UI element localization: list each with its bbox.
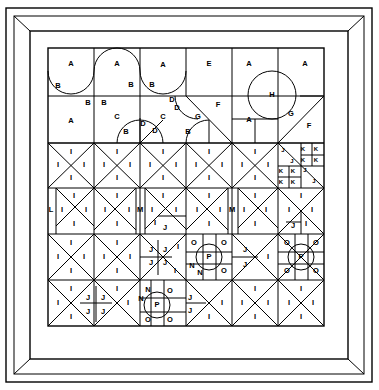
region-label-i-7: I: [116, 173, 118, 182]
region-label-j-83: J: [101, 307, 105, 316]
region-label-b-22: B: [123, 127, 129, 136]
region-label-b-8: B: [149, 80, 155, 89]
region-label-b-7: B: [128, 80, 134, 89]
region-label-a-1: A: [114, 59, 120, 68]
region-label-a-5: A: [302, 59, 308, 68]
region-label-i-5: I: [103, 160, 105, 169]
region-label-j-60: J: [149, 258, 153, 267]
region-label-j-70: J: [243, 260, 247, 269]
region-label-f-13: F: [216, 100, 221, 109]
region-label-i-54: I: [103, 252, 105, 261]
region-label-i-55: I: [129, 252, 131, 261]
region-label-i-17: I: [241, 160, 243, 169]
region-label-i-0: I: [70, 147, 72, 156]
region-label-o-90: O: [145, 315, 151, 324]
region-label-i-45: I: [288, 205, 290, 214]
region-label-a-15: A: [68, 116, 74, 125]
region-label-i-8: I: [162, 147, 164, 156]
region-label-i-79: I: [70, 312, 72, 321]
tiling-diagram: AAAEAABBBBBDDFHACCGAGFBDDB JKKJKKKKJKKJ …: [0, 0, 379, 390]
region-label-h-14: H: [269, 90, 274, 99]
region-label-n-67: N: [197, 268, 202, 277]
region-label-j-81: J: [101, 293, 105, 302]
region-label-i-97: I: [241, 298, 243, 307]
region-label-o-64: O: [221, 238, 227, 247]
region-label-j-34: J: [163, 223, 167, 232]
region-label-j-93: J: [188, 306, 192, 315]
region-label-i-101: I: [288, 298, 290, 307]
region-label-j-8: J: [303, 167, 306, 173]
region-label-i-71: I: [267, 252, 269, 261]
frame-miter-br: [348, 359, 364, 374]
region-label-i-40: I: [254, 191, 256, 200]
region-label-m-39: M: [229, 205, 235, 214]
region-label-o-63: O: [191, 238, 197, 247]
region-label-n-87: N: [138, 294, 143, 303]
region-label-i-27: I: [128, 205, 130, 214]
region-label-i-32: I: [175, 205, 177, 214]
region-label-a-2: A: [160, 60, 166, 69]
region-label-j-92: J: [188, 293, 192, 302]
region-label-k-5: K: [314, 157, 319, 163]
region-label-j-57: J: [149, 245, 153, 254]
region-label-i-100: I: [300, 284, 302, 293]
region-label-i-56: I: [116, 266, 118, 275]
region-label-d-12: D: [174, 103, 180, 112]
region-label-g-18: G: [195, 112, 201, 121]
region-label-i-13: I: [195, 160, 197, 169]
region-label-j-58: J: [163, 245, 167, 254]
region-label-o-76: O: [313, 266, 319, 275]
region-label-i-98: I: [267, 298, 269, 307]
region-label-j-82: J: [86, 307, 90, 316]
region-label-k-7: K: [291, 168, 296, 174]
region-label-b-10: B: [101, 98, 107, 107]
region-label-n-86: N: [145, 285, 150, 294]
region-label-k-9: K: [279, 179, 284, 185]
region-label-b-25: B: [185, 127, 191, 136]
region-label-i-99: I: [254, 312, 256, 321]
region-label-i-84: I: [116, 284, 118, 293]
region-label-c-16: C: [114, 112, 120, 121]
region-label-i-33: I: [154, 218, 156, 227]
region-label-e-3: E: [206, 59, 211, 68]
region-label-i-95: I: [221, 298, 223, 307]
region-label-i-103: I: [300, 312, 302, 321]
region-label-i-28: I: [116, 219, 118, 228]
region-label-f-21: F: [307, 121, 312, 130]
region-label-j-11: J: [312, 178, 315, 184]
region-label-i-19: I: [254, 173, 256, 182]
region-label-i-4: I: [116, 147, 118, 156]
region-label-i-9: I: [149, 160, 151, 169]
region-label-p-89: P: [154, 300, 159, 309]
region-label-i-35: I: [208, 191, 210, 200]
frame-miter-tr: [348, 16, 364, 31]
region-label-k-6: K: [279, 168, 284, 174]
frame-mid-rect: [14, 16, 364, 374]
region-label-i-48: I: [305, 219, 307, 228]
region-label-i-30: I: [162, 191, 164, 200]
arc-b-mid: [140, 71, 186, 94]
region-label-i-11: I: [162, 173, 164, 182]
region-label-i-12: I: [208, 147, 210, 156]
region-label-i-53: I: [116, 238, 118, 247]
region-label-o-72: O: [284, 238, 290, 247]
region-label-i-41: I: [243, 205, 245, 214]
region-label-i-43: I: [254, 219, 256, 228]
region-label-o-73: O: [313, 238, 319, 247]
region-label-i-44: I: [300, 191, 302, 200]
region-label-i-1: I: [57, 160, 59, 169]
region-label-p-65: P: [206, 252, 211, 261]
region-label-i-3: I: [70, 173, 72, 182]
region-label-j-0: J: [281, 147, 284, 153]
region-label-k-2: K: [314, 146, 319, 152]
region-label-c-17: C: [160, 112, 166, 121]
region-label-d-24: D: [152, 126, 158, 135]
region-label-i-26: I: [104, 205, 106, 214]
region-label-j-69: J: [243, 245, 247, 254]
region-label-i-96: I: [254, 284, 256, 293]
region-label-i-36: I: [196, 205, 198, 214]
labels-k-block: JKKJKKKKJKKJ: [279, 146, 319, 185]
region-label-i-94: I: [208, 312, 210, 321]
region-label-i-14: I: [221, 160, 223, 169]
region-label-a-0: A: [68, 59, 74, 68]
